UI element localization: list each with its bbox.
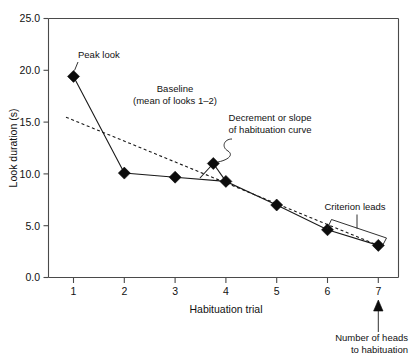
y-tick-label-5: 5.0 (25, 220, 40, 232)
y-tick-label-20: 20.0 (20, 64, 41, 76)
annotation-criterion-leads: Criterion leads (324, 201, 385, 212)
data-point-trial-4 (220, 175, 232, 187)
data-point-trial-2 (118, 167, 130, 179)
x-tick-label-2: 2 (121, 285, 127, 297)
y-tick-label-0: 0.0 (25, 271, 40, 283)
up-arrow-icon (374, 300, 383, 311)
data-point-trial-3 (169, 171, 181, 183)
x-axis-title: Habituation trial (190, 303, 263, 315)
x-tick-label-1: 1 (71, 285, 77, 297)
annotation-peak-look: Peak look (78, 49, 120, 60)
peak-look-leader-line (75, 62, 79, 71)
y-tick-label-15: 15.0 (20, 116, 41, 128)
y-tick-labels: 25.0 20.0 15.0 10.0 5.0 0.0 (20, 12, 41, 283)
y-axis-title: Look duration (s) (7, 109, 19, 188)
x-tick-labels: 1 2 3 4 5 6 7 (71, 285, 382, 297)
annotation-baseline-line2: (mean of looks 1–2) (133, 95, 217, 106)
chart-canvas: 25.0 20.0 15.0 10.0 5.0 0.0 1 2 3 4 5 6 … (0, 0, 412, 356)
data-point-trial-6 (322, 224, 334, 236)
decrement-squiggle-leader (218, 139, 232, 162)
y-tick-label-10: 10.0 (20, 168, 41, 180)
x-tick-label-7: 7 (375, 285, 381, 297)
habituation-curve-figure: 25.0 20.0 15.0 10.0 5.0 0.0 1 2 3 4 5 6 … (0, 0, 412, 356)
annotation-decrement-line2: of habituation curve (229, 124, 312, 135)
data-point-markers (68, 70, 385, 251)
x-tick-label-4: 4 (223, 285, 229, 297)
y-tick-label-25: 25.0 (20, 12, 41, 24)
x-tick-label-3: 3 (172, 285, 178, 297)
annotation-baseline-line1: Baseline (157, 83, 193, 94)
annotation-decrement-line1: Decrement or slope (229, 112, 312, 123)
x-tick-label-5: 5 (274, 285, 280, 297)
y-tick-marks (44, 19, 49, 278)
heads-to-habituation-callout (374, 300, 383, 332)
x-tick-marks (74, 278, 379, 284)
annotation-heads-line2: to habituation (351, 344, 408, 355)
x-tick-label-6: 6 (325, 285, 331, 297)
annotation-heads-line1: Number of heads (335, 332, 408, 343)
data-point-trial-1 (68, 70, 80, 82)
data-point-trial-5 (271, 199, 283, 211)
